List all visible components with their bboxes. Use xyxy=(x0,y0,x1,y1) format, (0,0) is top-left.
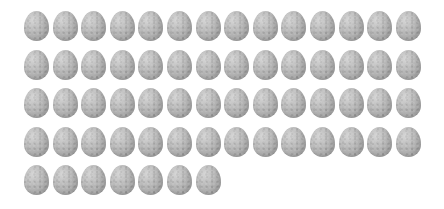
egg xyxy=(253,88,278,118)
egg xyxy=(339,11,364,41)
egg xyxy=(253,11,278,41)
egg xyxy=(53,88,78,118)
egg xyxy=(24,127,49,157)
egg xyxy=(24,165,49,195)
egg xyxy=(110,127,135,157)
egg xyxy=(110,88,135,118)
egg xyxy=(310,88,335,118)
egg xyxy=(281,50,306,80)
egg xyxy=(196,11,221,41)
egg xyxy=(167,50,192,80)
egg xyxy=(339,88,364,118)
egg xyxy=(339,50,364,80)
egg xyxy=(281,88,306,118)
egg xyxy=(53,165,78,195)
egg xyxy=(167,165,192,195)
egg xyxy=(24,88,49,118)
egg xyxy=(224,127,249,157)
egg xyxy=(81,88,106,118)
egg xyxy=(167,88,192,118)
egg xyxy=(138,165,163,195)
egg xyxy=(24,11,49,41)
egg xyxy=(138,50,163,80)
egg xyxy=(167,11,192,41)
egg xyxy=(196,127,221,157)
egg xyxy=(53,50,78,80)
egg xyxy=(24,50,49,80)
egg xyxy=(367,50,392,80)
egg xyxy=(224,50,249,80)
egg xyxy=(81,11,106,41)
egg xyxy=(281,11,306,41)
egg xyxy=(396,50,421,80)
egg xyxy=(224,88,249,118)
egg xyxy=(138,11,163,41)
egg xyxy=(81,127,106,157)
egg xyxy=(310,127,335,157)
egg xyxy=(138,127,163,157)
egg xyxy=(110,11,135,41)
egg xyxy=(281,127,306,157)
egg xyxy=(81,165,106,195)
egg xyxy=(253,50,278,80)
egg xyxy=(310,50,335,80)
egg xyxy=(138,88,163,118)
egg xyxy=(339,127,364,157)
egg xyxy=(196,88,221,118)
egg xyxy=(224,11,249,41)
egg xyxy=(110,50,135,80)
egg xyxy=(310,11,335,41)
egg xyxy=(53,11,78,41)
egg xyxy=(396,127,421,157)
egg xyxy=(196,50,221,80)
egg xyxy=(367,11,392,41)
egg xyxy=(367,88,392,118)
egg xyxy=(167,127,192,157)
egg xyxy=(53,127,78,157)
egg xyxy=(253,127,278,157)
egg xyxy=(196,165,221,195)
egg xyxy=(367,127,392,157)
egg xyxy=(81,50,106,80)
egg xyxy=(110,165,135,195)
egg xyxy=(396,11,421,41)
egg xyxy=(396,88,421,118)
